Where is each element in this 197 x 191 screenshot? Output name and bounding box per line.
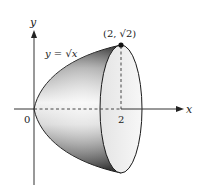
y-axis-arrowhead — [31, 30, 37, 38]
origin-label: 0 — [24, 114, 30, 125]
point-coordinate-label: (2, √2) — [103, 28, 136, 39]
x-axis-label: x — [186, 103, 193, 116]
point-marker — [118, 42, 123, 47]
x-axis-arrowhead — [176, 106, 184, 112]
paraboloid-diagram: y x 0 2 y = √x (2, √2) — [0, 0, 197, 191]
curve-equation-label: y = √x — [44, 48, 78, 59]
x-tick-label-2: 2 — [118, 114, 124, 125]
y-axis-label: y — [29, 16, 37, 29]
